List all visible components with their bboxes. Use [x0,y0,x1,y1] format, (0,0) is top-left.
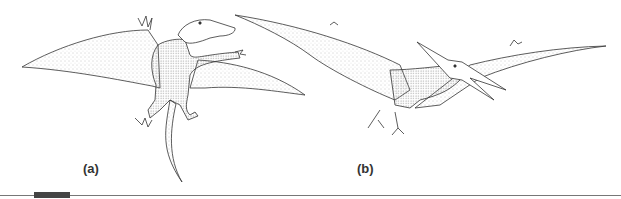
pterosaur-b-illustration [235,15,606,135]
pterosaur-a-illustration [22,16,305,182]
tail-a [166,100,182,182]
foreclaw-a [138,16,152,30]
head-a [178,20,235,44]
figure: (a) (b) [0,0,621,199]
panel-label-b: (b) [357,161,374,176]
rule-marker-block [34,192,70,198]
bottom-rule [0,195,621,196]
left-wing-a [22,30,160,88]
hindclaw-a [135,118,152,127]
panel-label-a: (a) [83,161,99,176]
feet-b [368,110,404,135]
right-wing-a [190,60,305,95]
